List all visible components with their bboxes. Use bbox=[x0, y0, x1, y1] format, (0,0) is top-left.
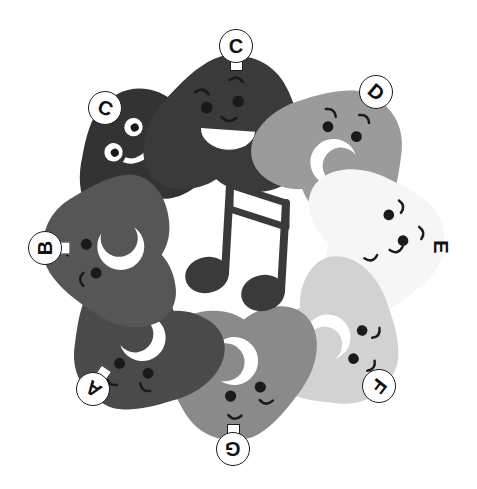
label-badge-f[interactable]: F bbox=[362, 369, 396, 403]
label-badge-text: D bbox=[364, 80, 388, 105]
label-badge-a[interactable]: A bbox=[76, 372, 110, 406]
label-badge-e[interactable]: E bbox=[424, 230, 458, 264]
note-beam bbox=[230, 185, 286, 227]
label-badge-text: B bbox=[35, 241, 55, 255]
label-badge-text: Ɔ bbox=[95, 96, 115, 120]
blob-ring-illustration bbox=[0, 0, 477, 489]
beamed-eighth-notes-icon bbox=[182, 185, 289, 315]
label-badge-d[interactable]: D bbox=[359, 75, 393, 109]
label-badge-c[interactable]: C bbox=[219, 29, 253, 63]
label-badge-text: A bbox=[81, 377, 104, 402]
label-badge-text: E bbox=[431, 240, 451, 253]
diagram-canvas: ƆCDEFGAB bbox=[0, 0, 477, 489]
label-badge-c[interactable]: Ɔ bbox=[88, 91, 122, 125]
label-badge-b[interactable]: B bbox=[28, 231, 62, 265]
label-badge-text: C bbox=[229, 36, 243, 56]
label-badge-text: F bbox=[367, 375, 390, 397]
label-badge-text: G bbox=[225, 439, 241, 459]
label-badge-g[interactable]: G bbox=[216, 432, 250, 466]
